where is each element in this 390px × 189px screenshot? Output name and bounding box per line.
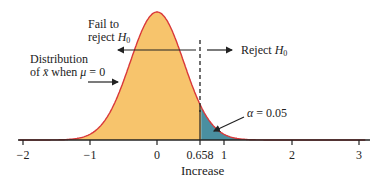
x-tick-label: 2 xyxy=(289,148,295,163)
x-axis-label: Increase xyxy=(181,164,224,177)
h0-sub: 0 xyxy=(283,49,287,58)
dist-eq: = 0 xyxy=(86,65,105,79)
x-tick-label: −2 xyxy=(17,148,30,163)
alpha-arrow xyxy=(214,117,244,131)
dist-of: of xyxy=(30,65,43,79)
reject-label: Reject H0 xyxy=(241,44,287,60)
x-axis-ticks xyxy=(23,140,359,145)
fail-label-line2: reject H0 xyxy=(88,31,130,47)
x-tick-label: 0 xyxy=(154,148,160,163)
x-tick-label: 0.658 xyxy=(187,148,214,163)
x-tick-label: 1 xyxy=(221,148,227,163)
fail-label-text: reject xyxy=(88,30,118,44)
x-tick-label: −1 xyxy=(84,148,97,163)
dist-when: when xyxy=(48,65,80,79)
alpha-label: α = 0.05 xyxy=(247,107,287,120)
fail-label: Fail to reject H0 xyxy=(88,18,130,47)
distribution-label-line2: of x̄ when μ = 0 xyxy=(30,66,105,79)
x-tick-label: 3 xyxy=(356,148,362,163)
distribution-label: Distribution of x̄ when μ = 0 xyxy=(30,53,105,79)
h0-sub: 0 xyxy=(126,36,130,45)
reject-label-text: Reject xyxy=(241,43,275,57)
alpha-value: = 0.05 xyxy=(253,106,287,120)
